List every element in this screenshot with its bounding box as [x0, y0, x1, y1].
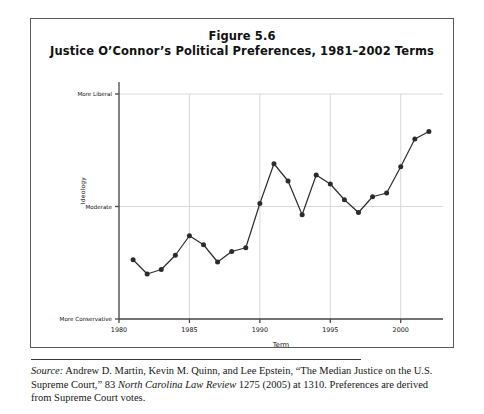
data-point — [145, 272, 150, 277]
figure-page: Figure 5.6 Justice O’Connor’s Political … — [0, 0, 484, 414]
y-axis-tick-label: Moderate — [85, 204, 112, 210]
data-point — [412, 137, 417, 142]
plot-area: More ConservativeModerateMore Liberal198… — [31, 19, 455, 349]
data-point — [159, 267, 164, 272]
data-point — [173, 253, 178, 258]
data-point — [314, 173, 319, 178]
x-axis-tick-label: 1995 — [322, 326, 338, 334]
source-divider — [31, 359, 361, 360]
data-point — [342, 197, 347, 202]
figure-box: Figure 5.6 Justice O’Connor’s Political … — [30, 18, 454, 348]
x-axis-tick-label: 1980 — [111, 326, 127, 334]
data-point — [243, 245, 248, 250]
data-point — [398, 164, 403, 169]
data-point — [286, 179, 291, 184]
y-axis-title: Ideology — [79, 161, 86, 221]
data-point — [356, 210, 361, 215]
data-point — [300, 212, 305, 217]
data-point — [426, 129, 431, 134]
data-point — [215, 260, 220, 265]
data-point — [271, 161, 276, 166]
data-point — [229, 249, 234, 254]
source-note: Source: Andrew D. Martin, Kevin M. Quinn… — [31, 364, 451, 405]
source-journal-name: North Carolina Law Review — [118, 379, 236, 390]
line-chart: More ConservativeModerateMore Liberal198… — [31, 19, 455, 349]
data-point — [384, 191, 389, 196]
data-point — [201, 242, 206, 247]
x-axis-tick-label: 2000 — [393, 326, 409, 334]
data-point — [370, 194, 375, 199]
data-point — [257, 201, 262, 206]
series-line — [133, 132, 429, 275]
x-axis-title: Term — [272, 341, 290, 349]
data-point — [131, 257, 136, 262]
y-axis-tick-label: More Liberal — [77, 91, 112, 97]
data-point — [328, 182, 333, 187]
y-axis-tick-label: More Conservative — [60, 316, 113, 322]
data-point — [187, 233, 192, 238]
x-axis-tick-label: 1985 — [181, 326, 197, 334]
x-axis-tick-label: 1990 — [252, 326, 268, 334]
source-label: Source: — [31, 365, 63, 376]
